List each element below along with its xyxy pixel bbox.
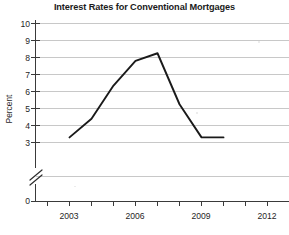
y-axis-break-slash-1 xyxy=(30,170,42,180)
y-axis-break-icon xyxy=(30,170,42,185)
plot-area xyxy=(0,0,289,235)
data-line-interest-rate xyxy=(70,53,224,137)
chart-figure: Interest Rates for Conventional Mortgage… xyxy=(0,0,289,235)
gridlines xyxy=(36,24,289,177)
